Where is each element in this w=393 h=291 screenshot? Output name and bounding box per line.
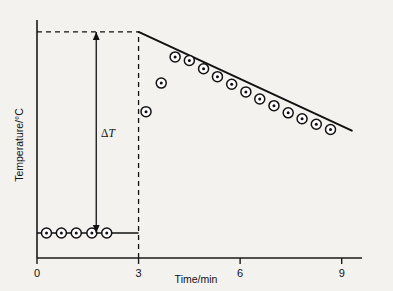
marker-dot	[287, 111, 290, 114]
x-axis-title: Time/min	[175, 273, 218, 285]
data-point	[311, 119, 321, 129]
marker-dot	[145, 110, 148, 113]
marker-dot	[160, 82, 163, 85]
marker-dot	[174, 55, 177, 58]
marker-dot	[202, 67, 205, 70]
data-point	[199, 64, 209, 74]
data-point	[227, 79, 237, 89]
marker-dot	[60, 232, 63, 235]
data-point	[283, 108, 293, 118]
marker-dot	[258, 98, 261, 101]
x-tick-label: 9	[339, 267, 345, 279]
plot-background	[0, 0, 393, 291]
marker-dot	[45, 232, 48, 235]
data-point	[41, 228, 51, 238]
data-point	[156, 78, 166, 88]
data-point	[269, 101, 279, 111]
data-point	[255, 94, 265, 104]
x-tick-label: 0	[34, 267, 40, 279]
marker-dot	[188, 59, 191, 62]
chart-canvas: 0369 ΔT Time/min Temperature/°C	[0, 0, 393, 291]
x-tick-label: 6	[237, 267, 243, 279]
x-tick-label: 3	[136, 267, 142, 279]
temperature-time-plot: 0369 ΔT Time/min Temperature/°C	[0, 0, 393, 291]
marker-dot	[105, 232, 108, 235]
data-point	[71, 228, 81, 238]
data-point	[297, 114, 307, 124]
data-point	[56, 228, 66, 238]
data-point	[212, 72, 222, 82]
marker-dot	[315, 123, 318, 126]
marker-dot	[301, 117, 304, 120]
marker-dot	[90, 232, 93, 235]
delta-t-label: ΔT	[101, 127, 116, 139]
data-point	[102, 228, 112, 238]
marker-dot	[216, 75, 219, 78]
data-point	[326, 124, 336, 134]
y-axis-title: Temperature/°C	[13, 108, 25, 182]
marker-dot	[272, 104, 275, 107]
data-point	[184, 55, 194, 65]
data-point	[241, 87, 251, 97]
marker-dot	[244, 90, 247, 93]
marker-dot	[329, 128, 332, 131]
data-point	[170, 52, 180, 62]
data-point	[141, 107, 151, 117]
marker-dot	[230, 83, 233, 86]
marker-dot	[75, 232, 78, 235]
